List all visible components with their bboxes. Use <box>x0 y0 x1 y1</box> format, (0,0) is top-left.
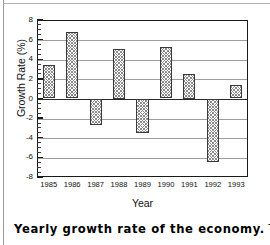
y-axis-tick <box>37 19 43 20</box>
y-axis-minor-tick <box>37 103 41 104</box>
bar <box>207 99 219 163</box>
y-axis-minor-tick <box>37 44 41 45</box>
y-axis-tick-label: 6 <box>29 36 33 44</box>
y-axis-minor-tick <box>37 69 41 70</box>
bar <box>113 49 125 98</box>
y-axis-tick <box>37 59 43 60</box>
y-axis-minor-tick <box>37 34 41 35</box>
y-axis-tick <box>37 98 43 99</box>
y-axis-tick-label: 8 <box>29 16 33 24</box>
y-axis-minor-tick <box>37 167 41 168</box>
y-axis-minor-tick <box>37 88 41 89</box>
x-axis-tick-label: 1988 <box>111 180 128 189</box>
x-axis-tick-label: 1989 <box>134 180 151 189</box>
bar <box>160 47 172 98</box>
y-axis-minor-tick <box>37 147 41 148</box>
y-axis-minor-tick <box>37 73 41 74</box>
bar <box>230 85 242 99</box>
bar <box>90 99 102 125</box>
y-axis-tick <box>37 137 43 138</box>
y-axis-minor-tick <box>37 54 41 55</box>
y-axis-tick-label: -8 <box>26 173 33 181</box>
figure-caption: Yearly growth rate of the economy. This <box>14 222 262 236</box>
y-axis-tick-label: -6 <box>26 153 33 161</box>
y-axis-minor-tick <box>37 64 41 65</box>
x-axis-title: Year <box>37 197 248 209</box>
y-axis-tick <box>37 39 43 40</box>
y-axis-minor-tick <box>37 132 41 133</box>
x-axis-tick-label: 1993 <box>228 180 245 189</box>
x-axis-tick-label: 1991 <box>181 180 198 189</box>
x-axis-tick-labels: 198519861987198819891990199119921993 <box>37 180 248 192</box>
y-axis-minor-tick <box>37 49 41 50</box>
y-axis-minor-tick <box>37 113 41 114</box>
x-axis-tick-label: 1987 <box>87 180 104 189</box>
figure-page: 86420-2-4-6-8 Growth Rate (%) 1985198619… <box>0 0 270 245</box>
y-axis-minor-tick <box>37 93 41 94</box>
y-axis-minor-tick <box>37 172 41 173</box>
bar <box>66 32 78 99</box>
y-axis-minor-tick <box>37 24 41 25</box>
bar-chart-figure: 86420-2-4-6-8 Growth Rate (%) 1985198619… <box>0 0 270 200</box>
y-axis-minor-tick <box>37 29 41 30</box>
y-axis-minor-tick <box>37 127 41 128</box>
x-axis-tick-label: 1992 <box>204 180 221 189</box>
y-axis-minor-tick <box>37 108 41 109</box>
y-axis-tick <box>37 78 43 79</box>
caption-rest-text: This <box>265 222 270 236</box>
y-axis-minor-tick <box>37 83 41 84</box>
bar <box>183 74 195 99</box>
bar-series <box>37 20 248 177</box>
y-axis-tick <box>37 157 43 158</box>
caption-bold-text: Yearly growth rate of the economy. <box>14 222 265 236</box>
y-axis-minor-tick <box>37 123 41 124</box>
y-axis-tick <box>37 117 43 118</box>
y-axis-tick-label: 2 <box>29 75 33 83</box>
y-axis-tick-label: 0 <box>29 95 33 103</box>
x-axis-tick-label: 1990 <box>157 180 174 189</box>
x-axis-tick-label: 1985 <box>40 180 57 189</box>
y-axis-minor-tick <box>37 142 41 143</box>
y-axis-tick-label: 4 <box>29 55 33 63</box>
y-axis-title: Growth Rate (%) <box>15 18 27 138</box>
y-axis-minor-tick <box>37 152 41 153</box>
y-axis-minor-tick <box>37 162 41 163</box>
bar <box>136 99 148 134</box>
y-axis-tick <box>37 176 43 177</box>
x-axis-tick-label: 1986 <box>64 180 81 189</box>
bar <box>43 65 55 98</box>
